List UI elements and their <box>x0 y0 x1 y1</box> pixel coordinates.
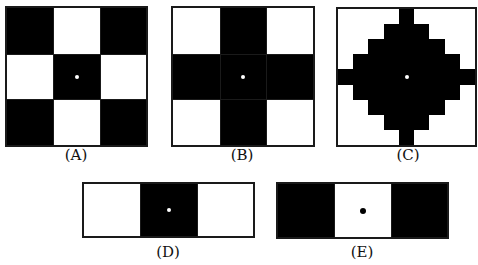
figure-c-cell <box>429 85 445 100</box>
grid-divider <box>173 99 313 100</box>
figure-d-strip <box>82 182 255 238</box>
figure-c-cell <box>414 9 429 24</box>
figure-c-cell <box>414 100 429 115</box>
figure-c-cell <box>353 100 368 115</box>
figure-c-cell <box>399 85 414 100</box>
figure-c-cell <box>353 24 368 39</box>
figure-c-cell <box>399 39 414 54</box>
figure-c-cell <box>445 24 460 39</box>
figure-c-cell <box>445 130 460 145</box>
figure-c-cell <box>368 54 384 69</box>
figure-c-cell <box>399 115 414 130</box>
figure-c-label: (C) <box>388 146 428 164</box>
figure-e-cell <box>278 184 334 237</box>
figure-c-cell <box>353 85 368 100</box>
figure-c-cell <box>338 100 353 115</box>
center-dot-icon <box>360 208 366 214</box>
figure-c-cell <box>353 39 368 54</box>
figure-c-stepped-diamond <box>336 7 477 147</box>
figure-c-cell <box>414 39 429 54</box>
figure-a-cell <box>7 99 53 145</box>
figure-c-cell <box>368 69 384 85</box>
figure-b-cell <box>266 99 313 145</box>
figure-c-cell <box>368 39 384 54</box>
figure-b-cell <box>173 99 220 145</box>
figure-c-cell <box>368 9 384 24</box>
figure-a-cell <box>100 8 146 54</box>
figure-c-cell <box>384 85 399 100</box>
figure-c-cell <box>460 130 475 145</box>
figure-b-cross <box>171 6 315 147</box>
figure-c-cell <box>429 24 445 39</box>
figure-c-cell <box>460 85 475 100</box>
figure-c-cell <box>353 9 368 24</box>
figure-c-cell <box>460 39 475 54</box>
figure-c-cell <box>460 24 475 39</box>
figure-c-cell <box>384 130 399 145</box>
figure-c-cell <box>445 100 460 115</box>
figure-c-cell <box>384 100 399 115</box>
figure-c-cell <box>338 115 353 130</box>
figure-c-cell <box>414 115 429 130</box>
figure-e-label: (E) <box>342 243 382 261</box>
figure-a-cell <box>100 54 146 99</box>
figure-c-cell <box>414 54 429 69</box>
figure-c-cell <box>384 39 399 54</box>
figure-c-cell <box>429 54 445 69</box>
figure-c-cell <box>368 100 384 115</box>
figure-c-cell <box>384 69 399 85</box>
figure-b-cell <box>266 8 313 54</box>
grid-divider <box>7 99 146 100</box>
figure-d-label: (D) <box>148 243 188 261</box>
figure-c-cell <box>460 115 475 130</box>
figure-c-cell <box>338 54 353 69</box>
grid-divider <box>100 8 101 145</box>
figure-c-cell <box>353 130 368 145</box>
grid-divider <box>140 184 141 236</box>
figure-b-cell <box>173 54 220 99</box>
figure-c-cell <box>414 24 429 39</box>
grid-divider <box>334 184 335 237</box>
figure-c-cell <box>445 115 460 130</box>
figure-c-cell <box>338 24 353 39</box>
figure-c-cell <box>460 9 475 24</box>
figure-c-cell <box>445 39 460 54</box>
figure-c-cell <box>460 100 475 115</box>
figure-a-cell <box>100 99 146 145</box>
figure-c-cell <box>384 115 399 130</box>
figure-c-cell <box>460 54 475 69</box>
figure-c-cell <box>399 24 414 39</box>
figure-c-cell <box>368 85 384 100</box>
figure-c-cell <box>338 39 353 54</box>
figure-c-cell <box>384 9 399 24</box>
figure-c-cell <box>429 115 445 130</box>
grid-divider <box>220 8 221 145</box>
figure-c-cell <box>429 69 445 85</box>
figure-c-cell <box>429 100 445 115</box>
figure-b-cell <box>220 99 266 145</box>
figure-c-cell <box>414 130 429 145</box>
center-dot-icon <box>405 75 409 79</box>
figure-c-cell <box>338 69 353 85</box>
figure-c-cell <box>368 24 384 39</box>
figure-c-cell <box>429 9 445 24</box>
figure-c-cell <box>399 9 414 24</box>
figure-c-cell <box>414 69 429 85</box>
figure-c-cell <box>445 9 460 24</box>
figure-c-cell <box>414 85 429 100</box>
figure-c-cell <box>460 69 475 85</box>
figure-c-cell <box>384 54 399 69</box>
figure-a-checkerboard <box>5 6 148 147</box>
figure-c-cell <box>338 9 353 24</box>
figure-c-cell <box>368 115 384 130</box>
figure-c-cell <box>353 54 368 69</box>
center-dot-icon <box>167 208 171 212</box>
center-dot-icon <box>75 75 79 79</box>
figure-d-cell <box>197 184 253 236</box>
figure-c-cell <box>338 130 353 145</box>
figure-e-strip <box>276 182 449 239</box>
figure-e-cell <box>391 184 447 237</box>
figure-c-cell <box>445 69 460 85</box>
figure-c-cell <box>353 69 368 85</box>
figure-c-cell <box>399 54 414 69</box>
